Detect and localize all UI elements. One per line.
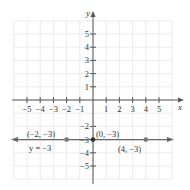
line-arrow-right-icon [167,137,174,142]
x-tick-label: 1 [104,104,108,114]
y-tick-label: 3 [85,55,89,65]
x-tick-label: −3 [49,104,58,114]
y-axis-arrow-icon [91,11,96,17]
y-tick-label: 1 [85,82,89,92]
x-axis-label: x [177,102,182,112]
axes [12,11,184,184]
y-tick-label: −5 [80,161,89,171]
point-label-b: (0, −3) [96,129,119,139]
x-tick-label: 3 [130,104,134,114]
x-tick-label: 5 [157,104,161,114]
x-tick-label: −4 [36,104,46,114]
x-tick-label: −1 [75,104,84,114]
data-point [91,137,96,142]
line-arrow-left-icon [11,137,18,142]
line-label: y = −3 [29,143,51,153]
x-tick-label: 2 [117,104,121,114]
data-point [143,137,148,142]
y-tick-label: 2 [85,69,89,79]
x-tick-label: 4 [144,104,149,114]
point-label-a: (−2, −3) [27,129,55,139]
x-tick-label: −5 [22,104,31,114]
data-point [64,137,69,142]
y-tick-label: 5 [85,29,89,39]
coordinate-plane: −5−4−3−2−11234554321−2−3−4−5 x y y = −3 … [0,0,190,190]
x-tick-label: −2 [62,104,71,114]
y-axis-label: y [85,8,90,18]
y-tick-label: −4 [80,148,90,158]
y-tick-label: −2 [80,121,89,131]
point-label-c: (4, −3) [118,144,141,154]
